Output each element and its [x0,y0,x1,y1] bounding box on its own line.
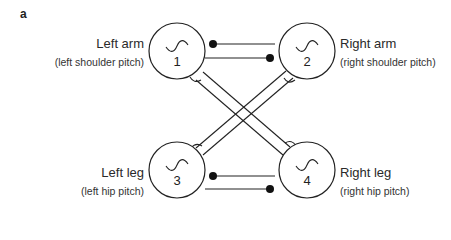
node-title: Right arm [340,36,436,52]
node-label-left-leg: Left leg (left hip pitch) [81,165,144,198]
connection-2-to-3 [196,71,286,148]
excitatory-dot-icon [266,185,274,193]
node-number: 2 [303,54,310,69]
excitatory-dot-icon [266,54,274,62]
node-subtitle: (right hip pitch) [340,184,409,198]
node-title: Left leg [81,165,144,181]
node-number: 4 [303,173,310,188]
excitatory-dot-icon [209,40,217,48]
node-label-left-arm: Left arm (left shoulder pitch) [55,36,144,69]
node-title: Left arm [55,36,144,52]
node-subtitle: (right shoulder pitch) [340,55,436,69]
node-1: 1 [149,23,205,79]
node-title: Right leg [340,165,409,181]
node-subtitle: (left shoulder pitch) [55,55,144,69]
connection-4-to-1 [196,80,283,155]
node-label-right-leg: Right leg (right hip pitch) [340,165,409,198]
node-number: 1 [173,54,180,69]
node-subtitle: (left hip pitch) [81,184,144,198]
excitatory-dot-icon [209,172,217,180]
node-label-right-arm: Right arm (right shoulder pitch) [340,36,436,69]
node-number: 3 [173,173,180,188]
inhibitory-cup-icon [190,77,201,81]
node-3: 3 [149,142,205,198]
connection-1-to-4 [203,72,290,147]
node-2: 2 [279,23,335,79]
node-4: 4 [279,142,335,198]
connection-3-to-2 [203,78,293,155]
